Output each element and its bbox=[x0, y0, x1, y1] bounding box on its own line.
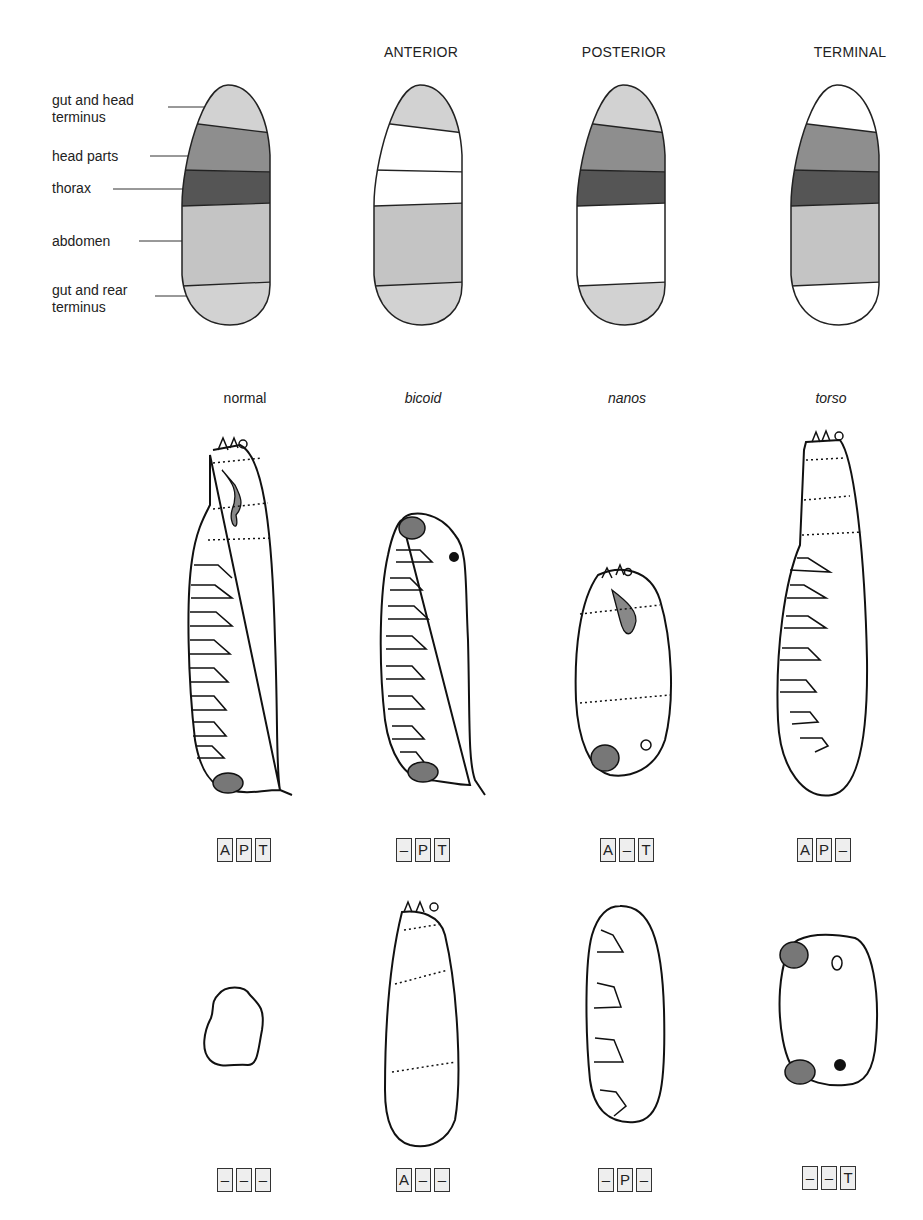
larva-nanos bbox=[576, 565, 671, 776]
genotype-box-a: A bbox=[396, 1168, 412, 1192]
genotype-box-t: – bbox=[835, 838, 851, 862]
genotype-normal: A P T bbox=[217, 838, 271, 862]
genotype-box-t: T bbox=[840, 1166, 856, 1190]
mutant-label-nanos: nanos bbox=[608, 390, 646, 406]
mutant-label-torso: torso bbox=[815, 390, 846, 406]
genotype-box-t: – bbox=[636, 1168, 652, 1192]
genotype-box-t: T bbox=[638, 838, 654, 862]
genotype-box-t: – bbox=[255, 1168, 271, 1192]
fate-map-anterior bbox=[374, 85, 464, 330]
genotype-t-only: – – T bbox=[802, 1166, 856, 1190]
genotype-box-a: – bbox=[217, 1168, 233, 1192]
genotype-box-p: P bbox=[617, 1168, 633, 1192]
larva-normal bbox=[188, 438, 292, 795]
genotype-box-p: P bbox=[415, 838, 431, 862]
genotype-torso: A P – bbox=[797, 838, 851, 862]
genotype-null: – – – bbox=[217, 1168, 271, 1192]
genotype-a-only: A – – bbox=[396, 1168, 450, 1192]
genotype-box-p: – bbox=[619, 838, 635, 862]
larva-triple-null bbox=[204, 988, 263, 1066]
diagram-canvas bbox=[0, 0, 923, 1220]
larva-torso bbox=[777, 431, 867, 796]
larva-posterior-only bbox=[586, 906, 664, 1122]
genotype-box-p: – bbox=[821, 1166, 837, 1190]
genotype-box-t: T bbox=[434, 838, 450, 862]
fate-map-posterior bbox=[577, 85, 667, 330]
genotype-p-only: – P – bbox=[598, 1168, 652, 1192]
larva-terminal-only bbox=[780, 935, 877, 1085]
genotype-box-p: P bbox=[816, 838, 832, 862]
mutant-label-normal: normal bbox=[224, 390, 267, 406]
genotype-box-a: – bbox=[396, 838, 412, 862]
genotype-box-t: – bbox=[434, 1168, 450, 1192]
fate-map-terminal bbox=[791, 85, 881, 330]
fate-map-normal bbox=[182, 85, 272, 330]
genotype-box-a: – bbox=[802, 1166, 818, 1190]
genotype-box-a: – bbox=[598, 1168, 614, 1192]
larva-bicoid bbox=[381, 513, 485, 795]
genotype-box-a: A bbox=[217, 838, 233, 862]
genotype-box-p: P bbox=[236, 838, 252, 862]
genotype-box-a: A bbox=[797, 838, 813, 862]
genotype-nanos: A – T bbox=[600, 838, 654, 862]
genotype-bicoid: – P T bbox=[396, 838, 450, 862]
mutant-label-bicoid: bicoid bbox=[405, 390, 442, 406]
genotype-box-t: T bbox=[255, 838, 271, 862]
genotype-box-p: – bbox=[415, 1168, 431, 1192]
genotype-box-a: A bbox=[600, 838, 616, 862]
genotype-box-p: – bbox=[236, 1168, 252, 1192]
larva-anterior-only bbox=[385, 902, 458, 1146]
